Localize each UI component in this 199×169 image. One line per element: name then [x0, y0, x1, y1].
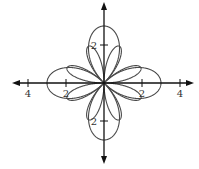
polar-rose-plot: 422422 [0, 0, 199, 169]
y-tick-label: 2 [91, 40, 97, 51]
x-tick-label: 4 [25, 88, 31, 99]
y-axis-up-arrow-icon [101, 2, 107, 10]
x-axis-right-arrow-icon [186, 80, 194, 86]
x-tick-label: 2 [63, 88, 69, 99]
x-tick-label: 4 [177, 88, 183, 99]
y-tick-label: 2 [91, 116, 97, 127]
y-axis-down-arrow-icon [101, 156, 107, 164]
x-axis-left-arrow-icon [12, 80, 20, 86]
x-tick-label: 2 [139, 88, 145, 99]
